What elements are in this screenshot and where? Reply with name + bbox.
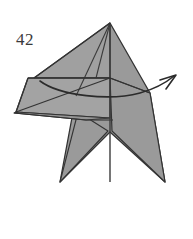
origami-figure: 42 bbox=[0, 0, 193, 239]
left-wing-upper bbox=[16, 78, 110, 118]
fold-arrow-head-icon bbox=[160, 75, 176, 89]
step-number-label: 42 bbox=[16, 30, 34, 50]
